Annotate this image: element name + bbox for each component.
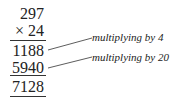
- annotation-multiplying-by-4: multiplying by 4: [92, 32, 164, 43]
- annotation-multiplying-by-20: multiplying by 20: [92, 52, 169, 63]
